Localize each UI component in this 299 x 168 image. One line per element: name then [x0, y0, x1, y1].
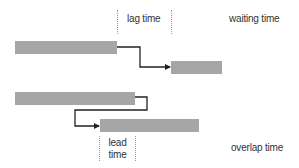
diagram-canvas: lag time waiting time lead time overlap … — [0, 0, 299, 168]
dependency-connectors — [0, 0, 299, 168]
lead-connector-arrow — [75, 97, 147, 126]
lag-connector-arrow — [117, 47, 170, 67]
